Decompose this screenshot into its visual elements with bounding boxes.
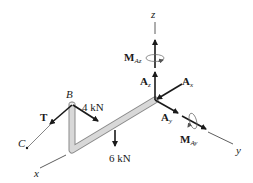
ax-label: Ax [182, 76, 193, 89]
ay-label: Ay [161, 112, 172, 125]
az-label: Az [140, 76, 151, 89]
may-rotation-icon [188, 112, 199, 129]
may-vector [182, 116, 206, 129]
point-c-dot [26, 147, 28, 149]
cable-line [28, 125, 50, 147]
may-label: MAy [180, 134, 197, 147]
ax-arrow [157, 84, 182, 99]
load-4kn-label: 4 kN [82, 102, 104, 113]
tension-label: T [40, 112, 47, 123]
x-axis-label: x [34, 168, 39, 179]
x-axis [40, 155, 66, 168]
maz-label: MAz [124, 52, 141, 65]
point-c-label: C [18, 138, 25, 149]
point-b-label: B [66, 89, 73, 100]
y-axis [208, 132, 233, 144]
z-axis-label: z [151, 9, 155, 20]
load-6kn-label: 6 kN [109, 153, 131, 164]
y-axis-label: y [236, 145, 241, 156]
free-body-diagram: z x y B C T 4 kN 6 kN MAz Az Ax Ay MAy [0, 0, 253, 183]
